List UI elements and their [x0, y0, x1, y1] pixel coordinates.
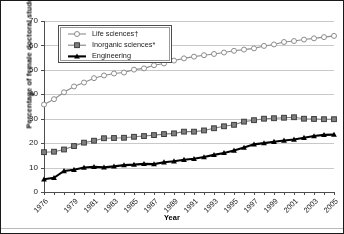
y-axis-title: Percentage of female doctoral students [25, 0, 34, 138]
figure-frame: Percentage of female doctoral students Y… [0, 0, 344, 234]
line-chart [1, 1, 344, 234]
x-axis-title: Year [1, 213, 343, 222]
footer-divider [1, 228, 343, 229]
